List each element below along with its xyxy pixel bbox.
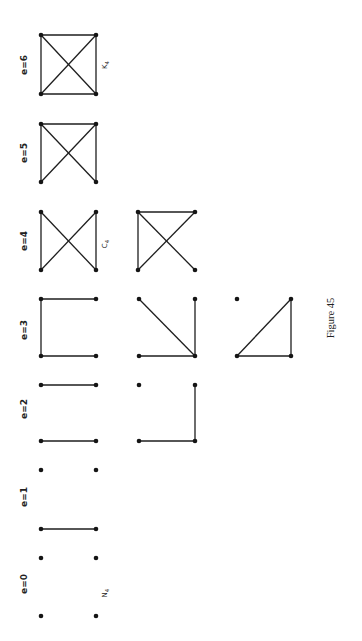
vertex <box>193 354 198 359</box>
vertex <box>94 556 99 561</box>
vertex <box>39 614 44 619</box>
figure-caption: Figure 45 <box>325 298 336 339</box>
vertex <box>235 297 240 302</box>
vertex <box>39 383 44 388</box>
vertex <box>137 383 142 388</box>
graph-e5 <box>39 122 99 185</box>
vertex <box>39 468 44 473</box>
vertex <box>94 614 99 619</box>
vertex <box>94 92 99 97</box>
graph-K4 <box>39 33 99 97</box>
graph-names: K4C4N4 <box>101 60 110 597</box>
vertex <box>193 210 198 215</box>
edge <box>237 299 291 356</box>
vertex <box>289 297 294 302</box>
vertex <box>39 33 44 38</box>
edge-count-label: e=4 <box>19 231 29 251</box>
edge-count-label: e=0 <box>19 574 29 594</box>
graph-name-label: N4 <box>101 588 110 597</box>
graph-C4 <box>39 210 99 273</box>
edge-count-label: e=5 <box>19 143 29 163</box>
graph-e2a <box>39 383 99 444</box>
vertex <box>94 210 99 215</box>
vertex <box>94 268 99 273</box>
vertex <box>289 354 294 359</box>
graph-e3a <box>39 297 99 359</box>
edge-count-label: e=6 <box>19 55 29 75</box>
edge-count-labels: e=6e=5e=4e=3e=2e=1e=0 <box>19 55 29 594</box>
vertex <box>39 439 44 444</box>
edge-count-label: e=1 <box>19 487 29 507</box>
vertex <box>136 268 141 273</box>
vertex <box>94 354 99 359</box>
graph-e2b <box>137 383 198 444</box>
vertex <box>39 180 44 185</box>
graph-e4b <box>136 210 198 273</box>
edge-count-label: e=2 <box>19 399 29 419</box>
vertex <box>39 297 44 302</box>
edge-count-label: e=3 <box>19 320 29 340</box>
vertex <box>94 122 99 127</box>
vertex <box>39 354 44 359</box>
graph-name-label: K4 <box>101 60 110 69</box>
vertex <box>94 297 99 302</box>
graph-e3b <box>137 297 198 359</box>
vertex <box>39 527 44 532</box>
vertex <box>39 210 44 215</box>
vertex <box>235 354 240 359</box>
vertex <box>39 268 44 273</box>
vertex <box>136 210 141 215</box>
vertex <box>137 354 142 359</box>
graph-N4 <box>39 556 99 619</box>
graph-e3c <box>235 297 294 359</box>
vertex <box>193 383 198 388</box>
vertex <box>94 383 99 388</box>
vertex <box>94 468 99 473</box>
vertex <box>94 180 99 185</box>
vertex <box>39 556 44 561</box>
vertex <box>39 122 44 127</box>
vertex <box>193 439 198 444</box>
graph-name-label: C4 <box>101 239 110 248</box>
graph-diagram: e=6e=5e=4e=3e=2e=1e=0 K4C4N4 Figure 45 <box>0 0 362 641</box>
graph-e1 <box>39 468 99 532</box>
vertex <box>137 439 142 444</box>
vertex <box>193 268 198 273</box>
vertex <box>193 297 198 302</box>
edge <box>139 299 195 356</box>
vertex <box>137 297 142 302</box>
vertex <box>39 92 44 97</box>
vertex <box>94 527 99 532</box>
vertex <box>94 33 99 38</box>
vertex <box>94 439 99 444</box>
graphs-layer <box>39 33 294 619</box>
